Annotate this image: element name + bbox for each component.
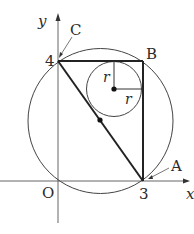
geometry-diagram: y C 4 B r r A O 3 x <box>0 0 194 234</box>
radius-label-horizontal: r <box>125 91 133 107</box>
incircle-center-dot <box>111 86 116 91</box>
point-b-label: B <box>146 45 157 63</box>
y-tick-4: 4 <box>45 52 55 70</box>
y-axis-label: y <box>37 12 47 30</box>
pointer-c <box>60 37 72 56</box>
origin-label: O <box>42 184 54 202</box>
x-tick-3: 3 <box>139 185 149 203</box>
point-c-label: C <box>70 21 81 39</box>
y-axis-arrow-icon <box>56 13 61 21</box>
x-axis-label: x <box>186 185 194 203</box>
pointer-a <box>150 168 169 178</box>
radius-label-vertical: r <box>103 69 111 85</box>
circumcircle-center-dot <box>97 117 102 122</box>
x-axis-arrow-icon <box>183 179 190 184</box>
point-a-label: A <box>170 157 182 175</box>
